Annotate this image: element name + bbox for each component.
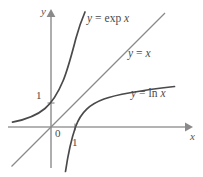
identity-label-var: x: [146, 47, 151, 59]
origin-label: 0: [55, 128, 61, 139]
x-axis: [8, 123, 193, 132]
exp-curve-label: y=exp x: [87, 13, 129, 25]
ln-label-fn: ln: [149, 87, 158, 99]
exp-label-y: y: [87, 12, 92, 24]
exp-curve: [13, 12, 86, 122]
x-axis-label: x: [190, 131, 195, 142]
y-axis-label: y: [41, 6, 46, 17]
graph-canvas: [0, 0, 203, 177]
x-tick-label-1: 1: [72, 137, 78, 148]
ln-label-eq: =: [139, 87, 146, 99]
y-tick-label-1: 1: [36, 90, 42, 101]
exp-label-fn: exp: [105, 12, 122, 24]
identity-label-y: y: [128, 47, 133, 59]
identity-label-eq: =: [136, 47, 143, 59]
ln-curve-label: y=ln x: [131, 88, 166, 100]
math-figure: y x 1 0 1 y=exp x y=x y=ln x: [0, 0, 203, 177]
exp-label-eq: =: [95, 12, 102, 24]
ln-label-var: x: [160, 87, 165, 99]
y-axis: [47, 9, 56, 168]
ln-label-y: y: [131, 87, 136, 99]
identity-curve-label: y=x: [128, 48, 151, 60]
exp-label-var: x: [124, 12, 129, 24]
y-axis-arrowhead: [47, 9, 56, 17]
